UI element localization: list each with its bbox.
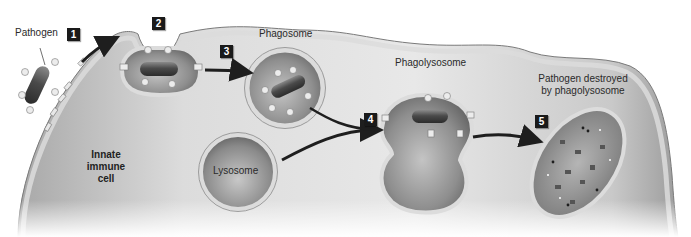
phagolysosome: [382, 93, 475, 213]
label-pathogen-destroyed: Pathogen destroyed by phagolysosome: [527, 73, 639, 97]
label-phagosome: Phagosome: [259, 28, 312, 40]
step-2-badge: 2: [152, 17, 165, 30]
label-destroyed-line2: by phagolysosome: [527, 85, 639, 97]
step-1-badge: 1: [67, 28, 80, 41]
diagram-graphics: [0, 0, 691, 237]
phagocytosis-diagram: Pathogen Phagosome Phagolysosome Lysosom…: [0, 0, 691, 237]
label-phagolysosome: Phagolysosome: [395, 57, 466, 69]
label-innate-immune-cell: Innate immune cell: [84, 149, 128, 185]
label-lysosome: Lysosome: [213, 165, 258, 177]
pathogen-free: [19, 48, 59, 114]
cell-label-line-1: Innate: [84, 149, 128, 161]
label-destroyed-line1: Pathogen destroyed: [527, 73, 639, 85]
engulfing-pocket: [120, 47, 202, 96]
step-5-badge: 5: [535, 115, 548, 128]
cell-label-line-3: cell: [84, 173, 128, 185]
label-pathogen: Pathogen: [15, 27, 58, 39]
step-3-badge: 3: [220, 45, 233, 58]
cell-label-line-2: immune: [84, 161, 128, 173]
step-4-badge: 4: [364, 113, 377, 126]
phagosome: [245, 48, 326, 129]
